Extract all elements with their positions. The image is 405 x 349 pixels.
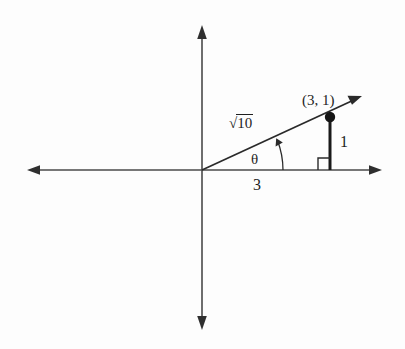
- coordinate-plane-figure: [0, 0, 405, 349]
- hypotenuse-length-label: √10: [229, 116, 253, 131]
- arrow-left-icon: [27, 165, 40, 175]
- adjacent-length-label: 3: [253, 177, 261, 193]
- angle-theta-label: θ: [251, 152, 258, 167]
- point-dot-icon: [325, 112, 335, 122]
- point-coordinate-label: (3, 1): [302, 93, 335, 108]
- arrow-up-icon: [197, 25, 207, 39]
- radicand-value: 10: [236, 114, 253, 131]
- terminal-ray-line: [202, 99, 356, 170]
- figure-canvas: (3, 1) √10 θ 3 1: [0, 0, 405, 349]
- arrow-right-icon: [369, 165, 382, 175]
- arrow-down-icon: [197, 316, 207, 330]
- right-angle-marker-icon: [318, 158, 330, 170]
- opposite-length-label: 1: [340, 134, 348, 150]
- arrow-ray-icon: [348, 96, 363, 105]
